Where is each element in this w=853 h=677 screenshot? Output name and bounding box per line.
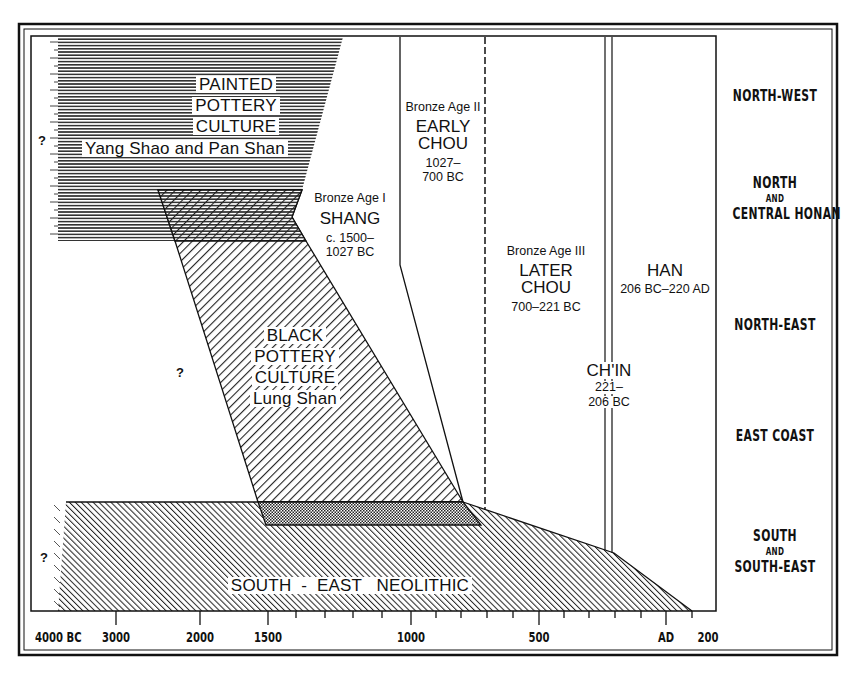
shang-date-2: 1027 BC [300,246,400,259]
painted-pottery-subtitle: Yang Shao and Pan Shan [82,140,288,157]
shang-name: SHANG [300,210,400,227]
painted-pottery-label: PAINTED POTTERY CULTURE [136,76,336,139]
chin-label: CH'IN 221– 206 BC [578,362,640,408]
region-sse-line-1: SOUTH [733,529,818,544]
overlap-hatch [158,190,306,241]
axis-label-1000: 1000 [397,629,426,645]
shang-label: Bronze Age I SHANG c. 1500– 1027 BC [300,192,400,259]
shang-date-1: c. 1500– [300,232,400,245]
early-chou-label: Bronze Age II EARLY CHOU 1027– 700 BC [400,101,486,184]
unknown-origin-northwest: ? [38,133,46,148]
early-chou-name-2: CHOU [400,135,486,152]
unknown-origin-neolithic: ? [40,550,48,565]
painted-pottery-subtitle-wrap: Yang Shao and Pan Shan [80,140,290,157]
early-chou-date-1: 1027– [400,157,486,170]
neolithic-label-wrap: SOUTH - EAST NEOLITHIC [218,560,468,594]
chronology-diagram: PAINTED POTTERY CULTURE Yang Shao and Pa… [0,0,853,677]
painted-pottery-title-3: CULTURE [193,118,279,135]
axis-label-1500: 1500 [254,629,283,645]
region-south-south-east: SOUTH AND SOUTH-EAST [733,529,818,575]
unknown-origin-black-pottery: ? [176,365,184,380]
neolithic-label: SOUTH - EAST NEOLITHIC [228,577,472,594]
region-nch-line-2: CENTRAL HONAN [733,207,818,222]
axis-label-3000: 3000 [102,629,131,645]
black-pottery-label: BLACK POTTERY CULTURE Lung Shan [240,327,350,411]
later-chou-bronze-age: Bronze Age III [490,245,602,258]
axis-label-ad: AD [655,629,677,645]
chin-date-1: 221– [578,381,640,394]
later-chou-name-1: LATER [490,262,602,279]
neolithic-fade-edge [54,505,60,607]
early-chou-name-1: EARLY [400,118,486,135]
axis-label-2000: 2000 [186,629,215,645]
later-chou-name-2: CHOU [490,279,602,296]
black-neolithic-overlap [258,502,481,525]
region-north-west: NORTH-WEST [733,89,818,104]
region-sse-and: AND [733,547,818,557]
axis-label-200: 200 [697,629,719,645]
region-nch-and: AND [733,194,818,204]
painted-pottery-title-2: POTTERY [192,97,279,114]
early-chou-date-2: 700 BC [400,171,486,184]
axis-label-500: 500 [525,629,554,645]
chin-name: CH'IN [578,362,640,379]
axis-ticks [116,611,692,625]
region-nch-line-1: NORTH [733,176,818,191]
axis-label-4000bc: 4000 BC [35,629,71,645]
later-chou-label: Bronze Age III LATER CHOU 700–221 BC [490,245,602,313]
black-pottery-title-1: BLACK [264,327,327,344]
shang-bronze-age: Bronze Age I [300,192,400,205]
black-pottery-subtitle: Lung Shan [250,390,340,407]
painted-pottery-fade-edge [50,42,58,234]
region-north-east: NORTH-EAST [733,318,818,333]
region-sse-line-2: SOUTH-EAST [733,560,818,575]
region-north-central-honan: NORTH AND CENTRAL HONAN [733,176,818,222]
early-chou-bronze-age: Bronze Age II [400,101,486,114]
black-pottery-title-3: CULTURE [252,369,338,386]
han-label: HAN 206 BC–220 AD [614,262,716,296]
han-date: 206 BC–220 AD [614,283,716,296]
chin-date-2: 206 BC [578,396,640,409]
later-chou-date: 700–221 BC [490,301,602,314]
region-east-coast: EAST COAST [733,429,818,444]
han-name: HAN [614,262,716,279]
black-pottery-title-2: POTTERY [251,348,338,365]
painted-pottery-title-1: PAINTED [196,76,276,93]
